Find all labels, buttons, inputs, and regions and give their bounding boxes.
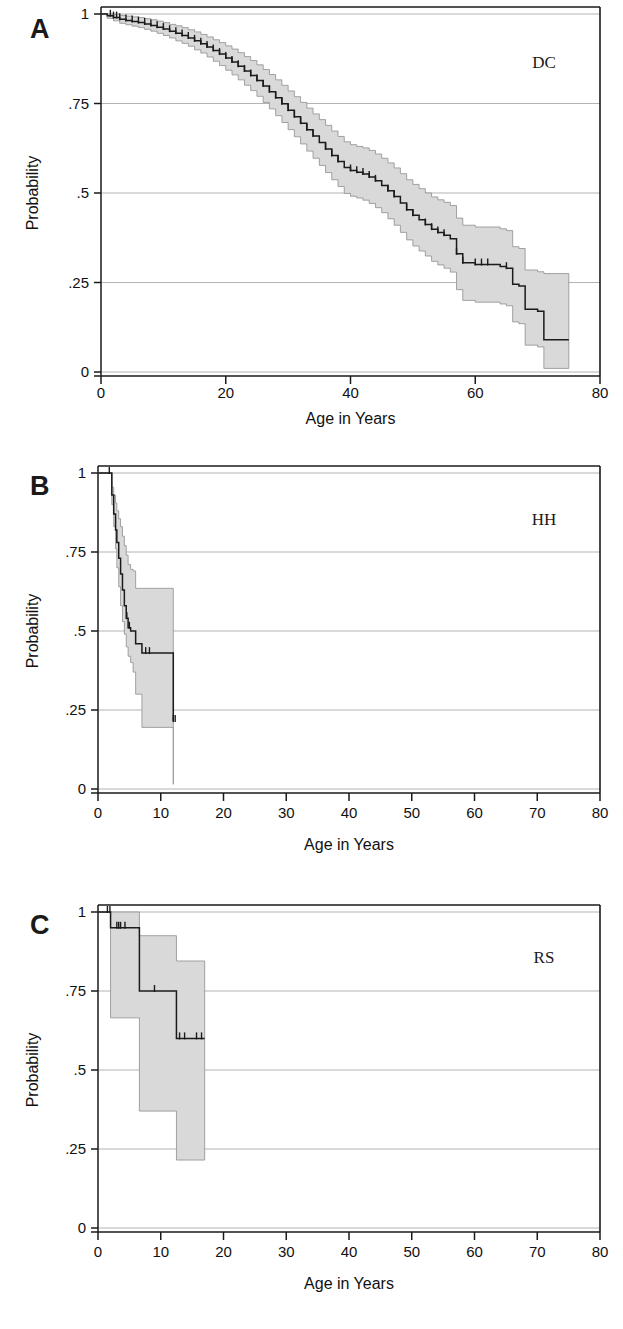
y-axis-title: Probability: [24, 156, 41, 231]
x-tick-label-8: 80: [592, 1243, 609, 1260]
x-tick-label-1: 10: [152, 1243, 169, 1260]
x-tick-label-3: 30: [278, 1243, 295, 1260]
y-tick-label-2: .5: [73, 622, 86, 639]
y-tick-label-3: .75: [68, 95, 89, 112]
x-tick-label-3: 30: [278, 804, 295, 821]
x-tick-label-7: 70: [529, 1243, 546, 1260]
panel-c: C0.25.5.75101020304050607080Age in Years…: [0, 890, 623, 1329]
panel-b-plot: B0.25.5.75101020304050607080Age in Years…: [0, 450, 623, 890]
y-tick-label-0: 0: [81, 363, 89, 380]
panel-letter-c: C: [30, 910, 50, 940]
y-tick-label-0: 0: [78, 1219, 86, 1236]
y-tick-label-4: 1: [81, 5, 89, 22]
confidence-band: [101, 14, 569, 368]
x-tick-label-6: 60: [466, 804, 483, 821]
y-tick-label-1: .25: [65, 701, 86, 718]
group-label-dc: DC: [532, 53, 556, 72]
x-axis-title: Age in Years: [306, 410, 396, 427]
panel-a-plot: A0.25.5.751020406080Age in YearsProbabil…: [0, 0, 623, 450]
group-label-hh: HH: [532, 510, 557, 529]
x-tick-label-0: 0: [94, 804, 102, 821]
x-axis-title: Age in Years: [304, 1275, 394, 1292]
x-tick-label-3: 60: [467, 384, 484, 401]
x-tick-label-8: 80: [592, 804, 609, 821]
group-label-rs: RS: [534, 948, 555, 967]
panel-c-plot: C0.25.5.75101020304050607080Age in Years…: [0, 890, 623, 1329]
y-tick-label-4: 1: [78, 903, 86, 920]
x-tick-label-1: 10: [152, 804, 169, 821]
y-tick-label-3: .75: [65, 543, 86, 560]
panel-letter-a: A: [30, 14, 50, 44]
x-tick-label-5: 50: [403, 804, 420, 821]
panel-b: B0.25.5.75101020304050607080Age in Years…: [0, 450, 623, 890]
y-tick-label-0: 0: [78, 780, 86, 797]
y-axis-title: Probability: [24, 594, 41, 669]
x-axis-title: Age in Years: [304, 836, 394, 853]
x-tick-label-1: 20: [217, 384, 234, 401]
x-tick-label-4: 40: [341, 804, 358, 821]
survival-curves-figure: A0.25.5.751020406080Age in YearsProbabil…: [0, 0, 623, 1329]
panel-a: A0.25.5.751020406080Age in YearsProbabil…: [0, 0, 623, 450]
x-tick-label-2: 20: [215, 804, 232, 821]
x-tick-label-7: 70: [529, 804, 546, 821]
x-tick-label-4: 40: [341, 1243, 358, 1260]
y-tick-label-4: 1: [78, 464, 86, 481]
y-tick-label-2: .5: [73, 1061, 86, 1078]
confidence-band: [98, 912, 205, 1160]
y-tick-label-2: .5: [76, 184, 89, 201]
x-tick-label-2: 20: [215, 1243, 232, 1260]
y-tick-label-1: .25: [65, 1140, 86, 1157]
x-tick-label-2: 40: [342, 384, 359, 401]
y-tick-label-1: .25: [68, 274, 89, 291]
confidence-band: [98, 473, 173, 784]
y-axis-title: Probability: [24, 1033, 41, 1108]
panel-letter-b: B: [30, 471, 50, 501]
x-tick-label-6: 60: [466, 1243, 483, 1260]
x-tick-label-4: 80: [592, 384, 609, 401]
x-tick-label-5: 50: [403, 1243, 420, 1260]
x-tick-label-0: 0: [94, 1243, 102, 1260]
x-tick-label-0: 0: [97, 384, 105, 401]
y-tick-label-3: .75: [65, 982, 86, 999]
